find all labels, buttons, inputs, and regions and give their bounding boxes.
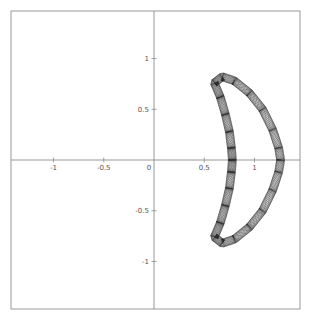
y-tick-label: 1 xyxy=(145,55,149,63)
y-tick-label: 0.5 xyxy=(138,106,149,114)
x-tick-label: -1 xyxy=(50,164,57,172)
orbit-loop xyxy=(212,74,285,244)
x-tick-label: -0.5 xyxy=(97,164,111,172)
orbit-loop xyxy=(211,75,284,247)
orbit-loop xyxy=(212,76,285,246)
tick-group: -1-0.500.5110.5-0.5-1 xyxy=(50,55,257,266)
y-tick-label: -1 xyxy=(142,258,149,266)
y-tick-label: -0.5 xyxy=(135,207,149,215)
x-tick-label: 0 xyxy=(147,164,151,172)
phase-plot: -1-0.500.5110.5-0.5-1 xyxy=(0,0,310,319)
x-tick-label: 1 xyxy=(252,164,256,172)
x-tick-label: 0.5 xyxy=(199,164,210,172)
